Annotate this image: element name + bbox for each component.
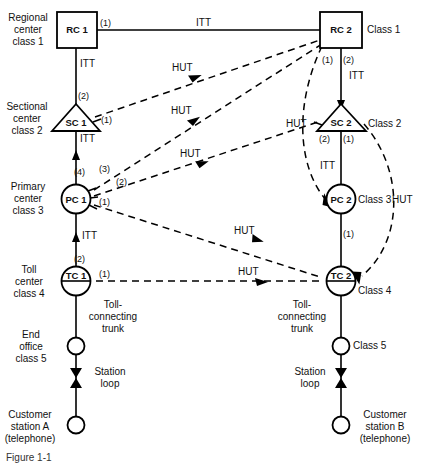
trunk-label-hut-5: HUT: [238, 266, 259, 278]
route-number-rc2-a: (1): [322, 54, 333, 66]
label-toll-connecting-trunk-left: Toll- connecting trunk: [82, 299, 144, 335]
itt-trunk-group: [76, 30, 341, 418]
node-end-office-b[interactable]: [333, 338, 350, 355]
trunk-label-hut-mid: HUT: [286, 118, 307, 130]
hut-line-pc1-rc2: [94, 44, 322, 190]
trunk-label-itt-rc2-sc2: ITT: [349, 70, 364, 82]
station-loop-bowtie-right-top: [335, 368, 347, 378]
label-customer-station-b: Customer station B (telephone): [352, 409, 418, 445]
node-label-sc2: SC 2: [321, 117, 361, 129]
trunk-label-hut-4: HUT: [234, 225, 255, 237]
trunk-label-hut-2: HUT: [171, 105, 192, 117]
route-number-pc1-b: (2): [116, 176, 127, 188]
arrow-up-pc1-tc1: [72, 232, 80, 242]
node-label-rc1: RC 1: [57, 24, 97, 36]
trunk-label-hut-right: HUT: [392, 194, 413, 206]
node-label-tc1: TC 1: [56, 270, 96, 282]
class-label-pc2: Class 3: [358, 194, 391, 206]
route-number-pc2-down: (1): [343, 228, 354, 240]
label-primary-center: Primary center class 3: [2, 181, 54, 217]
hut-line-pc1-sc2: [94, 122, 318, 196]
route-number-pc1-up: (4): [74, 166, 85, 178]
hut-line-sc1-rc2: [95, 40, 320, 117]
route-number-rc2-b: (2): [343, 54, 354, 66]
route-number-sc2-b: (1): [343, 133, 354, 145]
node-label-pc1: PC 1: [56, 194, 96, 206]
route-number-pc1-a: (3): [99, 163, 110, 175]
figure-caption: Figure 1-1: [6, 452, 52, 463]
class-label-sc2: Class 2: [368, 118, 401, 130]
class-label-eo-b: Class 5: [353, 340, 386, 352]
node-label-rc2: RC 2: [320, 24, 362, 36]
label-sectional-center: Sectional center class 2: [0, 101, 54, 137]
label-customer-station-a: Customer station A (telephone): [0, 409, 60, 445]
label-station-loop-left: Station loop: [85, 366, 135, 390]
hut-arrowheads: [187, 71, 365, 286]
node-customer-station-a[interactable]: [68, 417, 85, 434]
route-number-pc1-c: (1): [99, 196, 110, 208]
label-regional-center: Regional center class 1: [2, 12, 54, 48]
arrow-up-sc1-pc1: [72, 150, 80, 160]
route-number-sc1-side: (1): [101, 114, 112, 126]
label-toll-center: Toll center class 4: [4, 264, 54, 300]
station-loop-bowtie-left-top: [70, 368, 82, 378]
route-number-sc2-a: (2): [319, 133, 330, 145]
route-number-tc1-up: (2): [74, 253, 85, 265]
trunk-label-hut-3: HUT: [180, 148, 201, 160]
trunk-label-hut-1: HUT: [172, 62, 193, 74]
class-label-tc2: Class 4: [358, 285, 391, 297]
node-label-tc2: TC 2: [321, 270, 361, 282]
node-customer-station-b[interactable]: [333, 417, 350, 434]
node-end-office-a[interactable]: [68, 338, 85, 355]
arrow-hut-5: [255, 278, 268, 286]
route-number-tc1-side: (1): [99, 268, 110, 280]
trunk-label-itt-pc1-tc1: ITT: [82, 230, 97, 242]
label-station-loop-right: Station loop: [285, 366, 335, 390]
node-label-pc2: PC 2: [321, 194, 361, 206]
station-loop-bowtie-left-bottom: [70, 378, 82, 388]
hut-line-pc1-tc2: [94, 205, 320, 277]
trunk-label-itt-sc2-pc2: ITT: [320, 160, 335, 172]
station-loop-bowtie-right-bottom: [335, 378, 347, 388]
label-end-office: End office class 5: [6, 329, 56, 365]
label-toll-connecting-trunk-right: Toll- connecting trunk: [270, 299, 334, 335]
trunk-label-itt-top: ITT: [196, 17, 211, 29]
trunk-label-itt-rc1-sc1: ITT: [80, 58, 95, 70]
class-label-rc2: Class 1: [367, 24, 400, 36]
node-label-sc1: SC 1: [56, 117, 96, 129]
route-number-sc1-up: (2): [78, 90, 89, 102]
trunk-label-itt-sc1-pc1: ITT: [80, 133, 95, 145]
route-number-rc1-out: (1): [100, 17, 111, 29]
